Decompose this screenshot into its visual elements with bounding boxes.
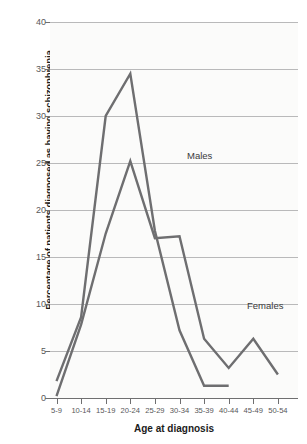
x-axis-tick-mark bbox=[180, 399, 181, 404]
x-axis-tick-mark bbox=[155, 399, 156, 404]
x-axis-tick-mark bbox=[253, 399, 254, 404]
y-axis-tick-mark bbox=[45, 398, 50, 399]
y-axis-tick-mark bbox=[45, 257, 50, 258]
y-axis-tick-label: 5 bbox=[22, 346, 46, 356]
x-axis-tick-mark bbox=[81, 399, 82, 404]
series-line-males bbox=[57, 74, 229, 386]
x-axis-tick-mark bbox=[204, 399, 205, 404]
x-axis-tick-mark bbox=[106, 399, 107, 404]
y-axis-tick-label: 20 bbox=[22, 205, 46, 215]
y-axis-tick-label: 35 bbox=[22, 64, 46, 74]
series-annotation-males: Males bbox=[187, 150, 212, 161]
y-axis-tick-mark bbox=[45, 304, 50, 305]
x-axis-tick-mark bbox=[229, 399, 230, 404]
schizophrenia-age-line-chart: Percentage of patients diagnosed as havi… bbox=[0, 0, 307, 444]
y-axis-tick-mark bbox=[45, 116, 50, 117]
y-axis-tick-mark bbox=[45, 163, 50, 164]
y-axis-tick-label: 15 bbox=[22, 252, 46, 262]
y-axis-tick-label: 10 bbox=[22, 299, 46, 309]
y-axis-tick-mark bbox=[45, 69, 50, 70]
x-axis-tick-mark bbox=[278, 399, 279, 404]
y-axis-tick-label: 30 bbox=[22, 111, 46, 121]
y-axis-tick-mark bbox=[45, 210, 50, 211]
series-lines bbox=[50, 22, 298, 398]
y-axis-tick-mark bbox=[45, 22, 50, 23]
y-axis-tick-label: 40 bbox=[22, 17, 46, 27]
x-axis-tick-mark bbox=[57, 399, 58, 404]
y-axis-tick-label: 25 bbox=[22, 158, 46, 168]
x-axis-tick-label-group: 5-910-1415-1920-2425-2930-3435-3940-4445… bbox=[50, 405, 302, 419]
series-annotation-females: Females bbox=[247, 300, 283, 311]
plot-area: Males Females bbox=[50, 22, 298, 398]
y-axis-tick-label-group: 0510152025303540 bbox=[22, 0, 46, 444]
x-axis-line bbox=[50, 398, 298, 399]
x-axis-title: Age at diagnosis bbox=[50, 423, 298, 434]
x-axis-tick-mark bbox=[130, 399, 131, 404]
y-axis-tick-mark bbox=[45, 351, 50, 352]
x-axis-tick-label: 50-54 bbox=[258, 405, 298, 417]
y-axis-tick-label: 0 bbox=[22, 393, 46, 403]
